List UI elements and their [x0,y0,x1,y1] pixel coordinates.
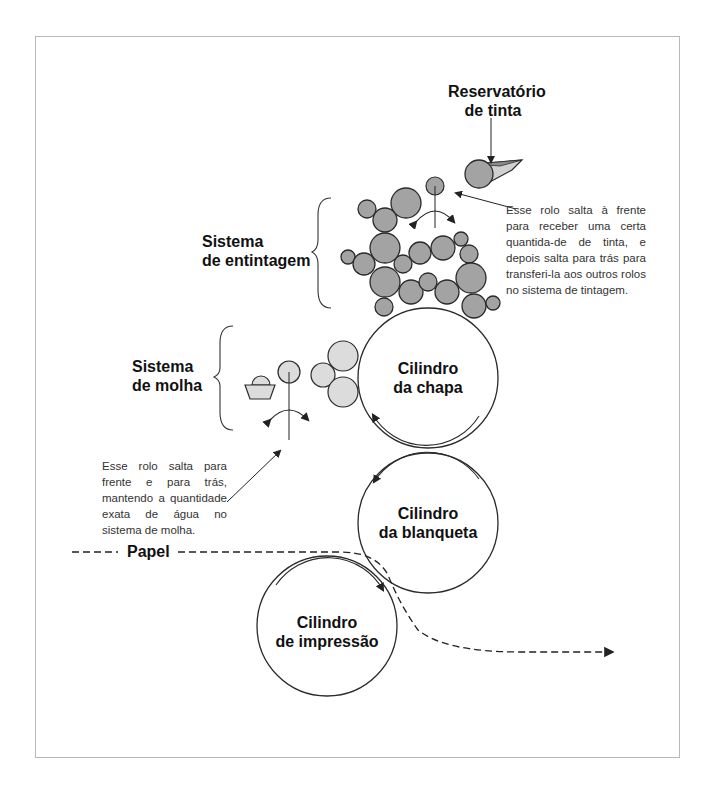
impression-cylinder-label: Cilindro de impressão [267,613,387,651]
blanket-cylinder-label-line1: Cilindro [373,504,483,523]
ink-reservoir-label-line1: Reservatório [448,82,538,101]
inking-system-label-line2: de entintagem [202,251,310,270]
inking-system-brace [312,198,331,308]
plate-cylinder-label-line2: da chapa [383,378,473,397]
paper-label: Papel [127,542,170,561]
dampening-system-brace [214,326,233,430]
ink-reservoir-label-line2: de tinta [448,101,538,120]
ink-ductor-note: Esse rolo salta à frente para receber um… [506,202,646,298]
blanket-cylinder-label: Cilindro da blanqueta [373,504,483,542]
plate-cylinder-label: Cilindro da chapa [383,359,473,397]
dampening-system-label: Sistema de molha [132,357,202,395]
water-ductor-note: Esse rolo salta para frente e para trás,… [102,458,227,538]
dampening-system [227,341,358,502]
press-diagram [0,0,718,793]
ink-ductor-roller [416,177,516,228]
ink-reservoir [465,118,522,188]
ink-reservoir-label: Reservatório de tinta [448,82,538,120]
blanket-cylinder-label-line2: da blanqueta [373,523,483,542]
plate-cylinder-label-line1: Cilindro [383,359,473,378]
inking-rollers [341,188,500,318]
dampening-system-label-line2: de molha [132,376,202,395]
inking-system-label-line1: Sistema [202,232,310,251]
inking-system-label: Sistema de entintagem [202,232,310,270]
impression-cylinder-label-line1: Cilindro [267,613,387,632]
impression-cylinder-label-line2: de impressão [267,632,387,651]
dampening-system-label-line1: Sistema [132,357,202,376]
